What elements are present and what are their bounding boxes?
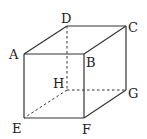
vertex-label-H: H [53, 76, 64, 91]
vertex-label-C: C [128, 20, 138, 35]
edge-HE-hidden [24, 90, 67, 118]
edge-BC [84, 26, 126, 54]
cube-diagram: A B C D E F G H [0, 0, 147, 139]
edge-FG [84, 90, 126, 118]
vertex-label-A: A [8, 47, 19, 62]
vertex-label-B: B [86, 55, 96, 70]
vertex-label-F: F [82, 122, 91, 137]
edge-DA [24, 26, 67, 54]
vertex-label-D: D [61, 11, 71, 26]
vertex-label-E: E [12, 121, 22, 136]
vertex-label-G: G [128, 86, 138, 101]
